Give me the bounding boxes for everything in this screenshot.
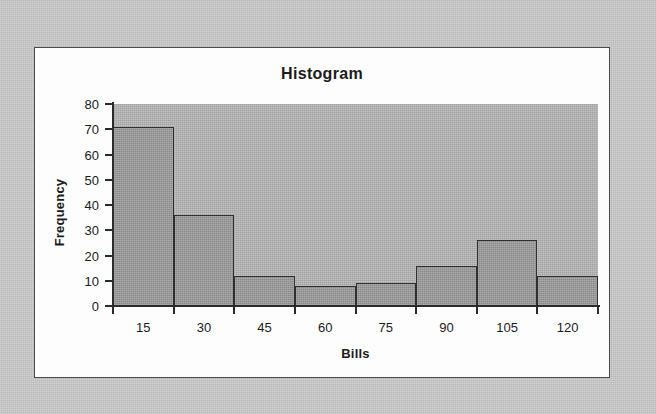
histogram-bar — [416, 266, 477, 306]
y-tick-label: 60 — [69, 147, 99, 162]
y-tick-label: 20 — [69, 248, 99, 263]
y-tick-mark — [105, 154, 113, 156]
x-tick-mark — [597, 306, 599, 314]
x-tick-mark — [536, 306, 538, 314]
histogram-bar — [174, 215, 235, 306]
histogram-bar — [234, 276, 295, 306]
y-tick-label: 10 — [69, 273, 99, 288]
x-tick-label: 105 — [477, 320, 537, 335]
x-tick-mark — [112, 306, 114, 314]
y-tick-mark — [105, 255, 113, 257]
histogram-bar — [477, 240, 538, 306]
x-tick-label: 120 — [538, 320, 598, 335]
y-tick-mark — [105, 280, 113, 282]
y-tick-mark — [105, 179, 113, 181]
x-tick-label: 45 — [235, 320, 295, 335]
plot-area — [113, 104, 598, 306]
y-tick-label: 30 — [69, 223, 99, 238]
x-axis-title: Bills — [113, 346, 598, 361]
y-tick-label: 40 — [69, 198, 99, 213]
x-tick-label: 75 — [356, 320, 416, 335]
y-axis-title: Frequency — [52, 153, 67, 273]
y-tick-label: 70 — [69, 122, 99, 137]
x-axis-line — [105, 305, 600, 307]
y-tick-label: 80 — [69, 97, 99, 112]
x-tick-label: 90 — [416, 320, 476, 335]
x-tick-mark — [294, 306, 296, 314]
x-tick-label: 30 — [174, 320, 234, 335]
x-tick-mark — [476, 306, 478, 314]
y-tick-mark — [105, 128, 113, 130]
x-tick-mark — [415, 306, 417, 314]
histogram-bar — [537, 276, 598, 306]
scanned-page-background: Histogram 80706050403020100 153045607590… — [0, 0, 656, 414]
y-tick-mark — [105, 229, 113, 231]
histogram-bar — [356, 283, 417, 306]
y-tick-label: 50 — [69, 172, 99, 187]
histogram-bar — [295, 286, 356, 306]
y-tick-label: 0 — [69, 299, 99, 314]
x-tick-label: 60 — [295, 320, 355, 335]
histogram-bar — [113, 127, 174, 306]
chart-panel: Histogram 80706050403020100 153045607590… — [34, 47, 610, 378]
x-tick-label: 15 — [113, 320, 173, 335]
x-tick-mark — [173, 306, 175, 314]
y-tick-mark — [105, 103, 113, 105]
y-tick-mark — [105, 204, 113, 206]
x-tick-mark — [355, 306, 357, 314]
x-tick-mark — [233, 306, 235, 314]
chart-title: Histogram — [35, 65, 609, 83]
